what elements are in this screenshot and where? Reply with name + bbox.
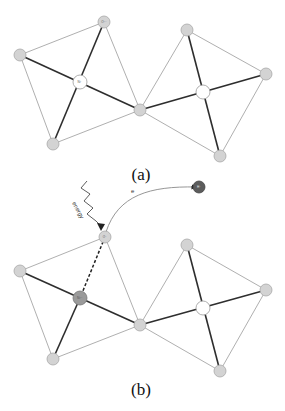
- oxygen-node-top-b: O⁻: [99, 231, 111, 243]
- energy-label: energy: [71, 201, 85, 220]
- energy-zigzag-icon: [81, 181, 101, 226]
- panel-b: e energy O⁻: [14, 181, 272, 399]
- node-label: H⁺: [197, 185, 201, 189]
- oxygen-node-bottom-right-b: [214, 365, 226, 377]
- electron-label: e: [131, 188, 135, 194]
- oxygen-node-shared-a: [134, 104, 146, 116]
- energy-arrowhead-icon: [97, 223, 105, 231]
- oxygen-node-bottom-right-a: [214, 150, 226, 162]
- caption-a: (a): [132, 165, 151, 184]
- oxygen-node-bottom-b: [47, 353, 59, 365]
- metal-node-center-right-a: [196, 85, 210, 99]
- electron-path-arrow: [106, 187, 196, 232]
- oxygen-node-top-right-b: [181, 239, 193, 251]
- oxygen-node-right-b: [260, 284, 272, 296]
- oxygen-node-top-a: O²⁻: [98, 16, 110, 28]
- oxygen-node-right-a: [260, 68, 272, 80]
- oxygen-node-left-a: [14, 49, 26, 61]
- ejected-proton-node: H⁺: [193, 181, 205, 193]
- caption-b: (b): [131, 380, 151, 399]
- metal-node-center-right-b: [196, 301, 210, 315]
- oxygen-node-top-right-a: [181, 24, 193, 36]
- nickel-node-center-b: Ni²⁺: [73, 291, 87, 305]
- node-label: O⁻: [103, 235, 107, 239]
- octahedra-diagram: O²⁻ Ni⁺ (a) e energy: [0, 0, 285, 411]
- nickel-node-center-a: Ni⁺: [73, 75, 87, 89]
- oxygen-node-shared-b: [134, 319, 146, 331]
- panel-a: O²⁻ Ni⁺ (a): [14, 16, 272, 184]
- node-label: Ni⁺: [78, 80, 83, 84]
- node-label: O²⁻: [101, 20, 106, 24]
- oxygen-node-bottom-a: [47, 138, 59, 150]
- oxygen-node-left-b: [14, 265, 26, 277]
- node-label: Ni²⁺: [77, 296, 83, 300]
